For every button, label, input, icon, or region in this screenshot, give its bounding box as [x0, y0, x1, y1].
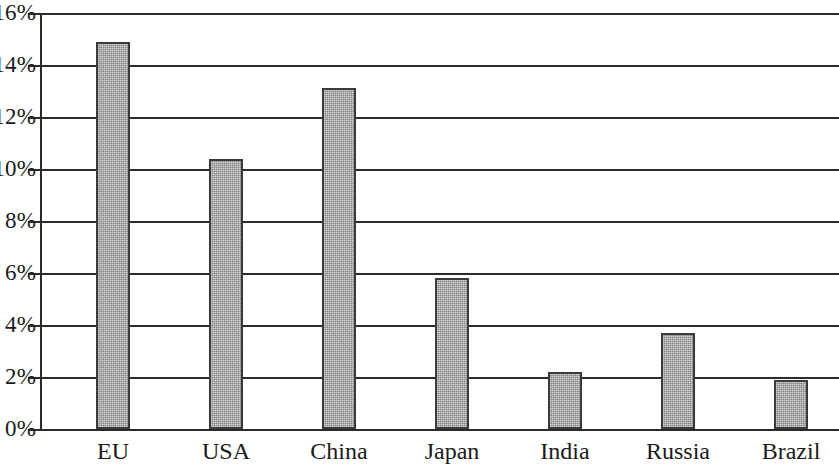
gridline: [40, 429, 839, 431]
y-tick-label: 4%: [0, 313, 36, 336]
y-tick-label: 6%: [0, 261, 36, 284]
y-tick-label: 2%: [0, 365, 36, 388]
y-tick-label: 14%: [0, 53, 36, 76]
y-tick-label: 16%: [0, 1, 36, 24]
y-tick-label: 10%: [0, 157, 36, 180]
bar-japan: [435, 278, 469, 429]
y-tick-label: 8%: [0, 209, 36, 232]
bar-chart: 16%14%12%10%8%6%4%2%0% EUUSAChinaJapanIn…: [0, 0, 839, 470]
bar-usa: [209, 159, 243, 429]
bar-russia: [661, 333, 695, 429]
x-tick-label: Brazil: [716, 437, 839, 465]
y-tick-label: 12%: [0, 105, 36, 128]
plot-area: [40, 13, 839, 429]
bar-china: [322, 88, 356, 429]
bar-india: [548, 372, 582, 429]
bar-eu: [96, 42, 130, 429]
bar-brazil: [774, 380, 808, 429]
y-tick-label: 0%: [0, 417, 36, 440]
